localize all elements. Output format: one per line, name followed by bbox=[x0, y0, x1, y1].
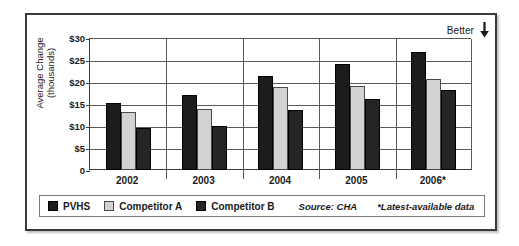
y-axis-title: Average Change (thousands) bbox=[35, 17, 55, 129]
y-axis-tick-label: $20 bbox=[69, 77, 85, 88]
bar-pvhs-2003 bbox=[182, 95, 197, 170]
bar-group-2002 bbox=[90, 39, 166, 170]
source-note: Source: CHA bbox=[289, 196, 368, 216]
bar-competitor-a-2003 bbox=[197, 109, 212, 170]
bar-group-2004 bbox=[243, 39, 319, 170]
better-annotation: Better bbox=[399, 21, 489, 39]
plot-area bbox=[89, 38, 471, 170]
group-separator bbox=[396, 39, 397, 170]
legend-label: Competitor A bbox=[119, 201, 182, 212]
chart-legend: PVHSCompetitor ACompetitor B Source: CHA… bbox=[39, 195, 485, 217]
group-separator bbox=[166, 39, 167, 170]
x-axis-tick-labels: 20022003200420052006* bbox=[89, 175, 471, 189]
bar-competitor-a-2002 bbox=[121, 112, 136, 170]
chart-figure-frame: Better Average Change (thousands) 0$5$10… bbox=[25, 13, 497, 231]
x-axis-tick-label: 2006* bbox=[420, 175, 446, 186]
y-axis-tick-label: 0 bbox=[80, 165, 85, 176]
bar-competitor-a-2004 bbox=[273, 87, 288, 170]
y-axis-tick-label: $30 bbox=[69, 33, 85, 44]
bar-competitor-a-2006 bbox=[426, 79, 441, 170]
y-axis-tick-label: $5 bbox=[74, 143, 85, 154]
legend-label: Competitor B bbox=[211, 201, 274, 212]
x-axis-tick-label: 2005 bbox=[345, 175, 367, 186]
plot-right-edge bbox=[471, 39, 472, 170]
footnote: *Latest-available data bbox=[367, 196, 484, 216]
legend-swatch-icon bbox=[196, 201, 206, 211]
arrow-down-icon bbox=[480, 22, 489, 38]
y-axis-tick-label: $25 bbox=[69, 55, 85, 66]
y-axis-tick-label: $10 bbox=[69, 121, 85, 132]
legend-swatch-icon bbox=[104, 201, 114, 211]
bar-competitor-b-2002 bbox=[136, 128, 151, 170]
bar-competitor-b-2005 bbox=[365, 99, 380, 170]
y-axis-tick-label: $15 bbox=[69, 99, 85, 110]
legend-entry-competitor-b[interactable]: Competitor B bbox=[196, 201, 274, 212]
legend-label: PVHS bbox=[63, 201, 90, 212]
bar-competitor-a-2005 bbox=[350, 86, 365, 170]
y-axis-tick-labels: 0$5$10$15$20$25$30 bbox=[55, 38, 85, 170]
bar-group-2005 bbox=[319, 39, 395, 170]
bar-pvhs-2004 bbox=[258, 76, 273, 170]
bar-pvhs-2006 bbox=[411, 52, 426, 170]
better-label: Better bbox=[447, 25, 474, 36]
legend-swatch-icon bbox=[48, 201, 58, 211]
bar-competitor-b-2003 bbox=[212, 126, 227, 170]
x-axis-tick-label: 2003 bbox=[192, 175, 214, 186]
y-axis-title-line-1: Average Change bbox=[34, 37, 45, 108]
legend-series-entries: PVHSCompetitor ACompetitor B bbox=[40, 196, 275, 216]
bar-pvhs-2002 bbox=[106, 103, 121, 170]
x-axis-tick-label: 2002 bbox=[116, 175, 138, 186]
legend-entry-competitor-a[interactable]: Competitor A bbox=[104, 201, 182, 212]
bar-group-2003 bbox=[166, 39, 242, 170]
group-separator bbox=[319, 39, 320, 170]
legend-entry-pvhs[interactable]: PVHS bbox=[48, 201, 90, 212]
bar-pvhs-2005 bbox=[335, 64, 350, 170]
bar-group-2006 bbox=[396, 39, 472, 170]
bar-competitor-b-2004 bbox=[288, 110, 303, 170]
y-axis-tick bbox=[86, 171, 90, 172]
group-separator bbox=[243, 39, 244, 170]
bar-competitor-b-2006 bbox=[441, 90, 456, 170]
x-axis-tick-label: 2004 bbox=[269, 175, 291, 186]
